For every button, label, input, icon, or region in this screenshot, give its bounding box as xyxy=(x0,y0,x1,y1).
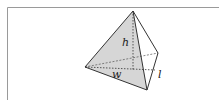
figure-panel: h w l xyxy=(0,0,219,105)
pyramid-diagram: h w l xyxy=(0,0,219,105)
label-h: h xyxy=(122,36,129,49)
edge-front-back xyxy=(147,53,158,90)
label-w: w xyxy=(112,68,122,81)
label-l: l xyxy=(158,68,162,81)
